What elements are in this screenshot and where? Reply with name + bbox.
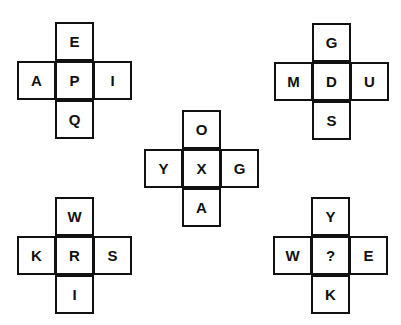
cell-left: K: [17, 236, 56, 275]
cell-bottom: S: [312, 101, 351, 140]
cross-top-left: E A P I Q: [17, 22, 134, 140]
cell-bottom: K: [311, 275, 350, 314]
cell-left: W: [273, 236, 312, 275]
cell-center: P: [55, 61, 94, 100]
cell-left: Y: [144, 149, 183, 188]
cell-right: E: [349, 236, 388, 275]
cell-center: R: [55, 236, 94, 275]
cell-top: E: [55, 22, 94, 61]
cell-top: Y: [311, 197, 350, 236]
cross-bottom-right: Y W ? E K: [273, 197, 390, 315]
cell-center: D: [312, 62, 351, 101]
cell-left: M: [274, 62, 313, 101]
cell-right: U: [350, 62, 389, 101]
cell-top: O: [182, 110, 221, 149]
cross-top-right: G M D U S: [274, 23, 391, 141]
cell-top: G: [312, 23, 351, 62]
cell-left: A: [17, 61, 56, 100]
cross-middle: O Y X G A: [144, 110, 261, 228]
cell-right: I: [93, 61, 132, 100]
cell-bottom: Q: [55, 100, 94, 139]
cell-right: G: [220, 149, 259, 188]
cell-bottom: I: [55, 275, 94, 314]
cell-center: X: [182, 149, 221, 188]
cell-bottom: A: [182, 188, 221, 227]
cell-center-unknown: ?: [311, 236, 350, 275]
cell-top: W: [55, 197, 94, 236]
cell-right: S: [93, 236, 132, 275]
cross-bottom-left: W K R S I: [17, 197, 134, 315]
